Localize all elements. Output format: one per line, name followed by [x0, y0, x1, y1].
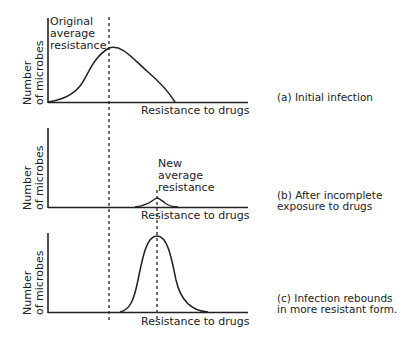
panel-b-xlabel: Resistance to drugs [141, 210, 250, 222]
panel-a-ylabel: Number of microbes [22, 41, 46, 105]
ylabel-line: of microbes [34, 41, 46, 105]
panel-b-axes [48, 128, 248, 208]
ylabel-line: of microbes [34, 146, 46, 210]
panel-c-ylabel: Number of microbes [22, 251, 46, 315]
panel-a-curve [48, 47, 175, 102]
panel-c-xlabel: Resistance to drugs [141, 316, 250, 328]
panel-c-curve [120, 236, 208, 312]
annotation-line: resistance [158, 182, 214, 194]
original-average-resistance-label: Original average resistance [50, 16, 106, 52]
panel-c-caption: (c) Infection rebounds in more resistant… [277, 293, 397, 315]
panel-a-caption: (a) Initial infection [277, 92, 373, 103]
caption-line: exposure to drugs [277, 201, 382, 212]
caption-line: (a) Initial infection [277, 92, 373, 103]
annotation-line: resistance [50, 40, 106, 52]
panel-c-axes [48, 233, 248, 313]
new-average-resistance-label: New average resistance [158, 158, 214, 194]
panel-b-caption: (b) After incomplete exposure to drugs [277, 190, 382, 212]
ylabel-line: of microbes [34, 251, 46, 315]
panel-b-ylabel: Number of microbes [22, 146, 46, 210]
caption-line: in more resistant form. [277, 304, 397, 315]
panel-a-xlabel: Resistance to drugs [141, 105, 250, 117]
